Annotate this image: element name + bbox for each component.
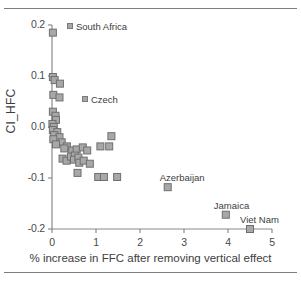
x-tick-label-5: 5	[257, 236, 287, 248]
annotation-marker-icon	[67, 23, 73, 29]
data-point	[108, 133, 115, 140]
data-point	[86, 160, 93, 167]
data-point	[100, 173, 107, 180]
x-tick-label-2: 2	[125, 236, 155, 248]
data-point-jamaica	[222, 211, 229, 218]
annotation-jamaica: Jamaica	[214, 200, 249, 211]
annotation-south-africa: South Africa	[67, 21, 127, 32]
annotation-text: Jamaica	[214, 200, 249, 211]
y-tick-label-3: 0.1	[4, 69, 45, 81]
data-point	[52, 141, 59, 148]
annotation-text: South Africa	[76, 21, 127, 32]
y-axis-label: CI_HFC	[4, 76, 18, 146]
x-tick-label-0: 0	[37, 236, 67, 248]
data-point	[56, 94, 63, 101]
annotation-text: Viet Nam	[240, 214, 279, 225]
data-point-azerbaijan	[164, 184, 171, 191]
x-tick-label-4: 4	[213, 236, 243, 248]
x-tick-label-3: 3	[169, 236, 199, 248]
annotation-text: Azerbaijan	[160, 172, 205, 183]
annotation-text: Czech	[91, 94, 118, 105]
y-tick-label-4: 0.2	[4, 18, 45, 30]
x-axis-label: % increase in FFC after removing vertica…	[0, 252, 301, 264]
data-point	[114, 173, 121, 180]
annotation-czech: Czech	[82, 94, 118, 105]
data-point	[74, 169, 81, 176]
annotation-viet-nam: Viet Nam	[240, 214, 279, 225]
y-tick-label-1: -0.1	[4, 171, 45, 183]
data-point-south-africa	[49, 29, 56, 36]
annotation-marker-icon	[82, 96, 88, 102]
y-tick-label-0: -0.2	[4, 222, 45, 234]
y-tick-label-2: 0.0	[4, 120, 45, 132]
data-point	[84, 147, 91, 154]
figure-container: CI_HFC % increase in FFC after removing …	[0, 0, 301, 286]
scatter-plot: CI_HFC % increase in FFC after removing …	[0, 0, 301, 286]
data-point-czech	[56, 80, 63, 87]
annotation-azerbaijan: Azerbaijan	[160, 172, 205, 183]
data-point	[106, 143, 113, 150]
data-point	[97, 143, 104, 150]
x-tick-label-1: 1	[81, 236, 111, 248]
data-point	[61, 145, 68, 152]
data-point-viet-nam	[247, 226, 254, 233]
